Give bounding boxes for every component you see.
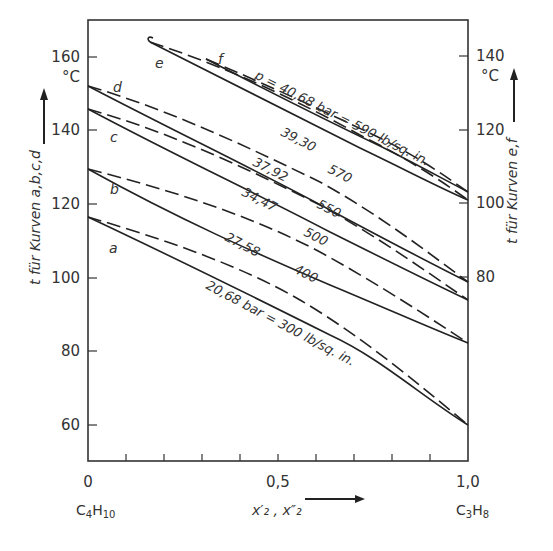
left-tick-100: 100: [51, 269, 80, 287]
curve-e-boiling: [150, 42, 468, 200]
component-left-c4h10: C4H10: [76, 502, 115, 520]
component-right-c3h8: C3H8: [456, 502, 489, 520]
left-tick-160: 160: [51, 48, 80, 66]
x-axis-title: x′₂ , x″₂: [251, 502, 302, 518]
x-ticks: [126, 454, 430, 461]
right-tick-120: 120: [476, 121, 505, 139]
phase-diagram: 60 80 100 120 140 160 °C 80 100 120 140 …: [0, 0, 553, 551]
right-y-ticks: [459, 56, 468, 277]
right-unit: °C: [481, 67, 499, 85]
annotation-27-58: 27,58: [223, 229, 263, 259]
curve-label-f: f: [218, 51, 225, 67]
curve-label-a: a: [109, 240, 118, 256]
right-tick-140: 140: [476, 47, 505, 65]
annotation-39-30: 39,30: [279, 124, 319, 154]
curve-label-e: e: [155, 55, 164, 71]
right-tick-100: 100: [476, 194, 505, 212]
curve-label-b: b: [110, 181, 119, 197]
left-tick-140: 140: [51, 121, 80, 139]
x-axis-arrow-icon: [305, 495, 365, 503]
left-unit: °C: [62, 68, 80, 86]
curve-label-c: c: [110, 129, 118, 145]
y-right-axis-arrow-icon: [510, 68, 518, 122]
y-left-axis-arrow-icon: [40, 88, 48, 144]
curves: [88, 37, 468, 425]
annotation-p-top: p = 40,68 bar = 590 lb/sq. in.: [252, 67, 433, 169]
left-tick-80: 80: [61, 342, 80, 360]
x-tick-0.5: 0,5: [266, 473, 290, 491]
annotation-p-bottom: 20,68 bar = 300 lb/sq. in.: [204, 277, 358, 368]
x-tick-1.0: 1,0: [456, 473, 480, 491]
x-tick-0: 0: [83, 473, 93, 491]
y-right-axis-title: t für Kurven e,f: [504, 136, 520, 244]
right-tick-80: 80: [476, 268, 495, 286]
y-left-axis-title: t für Kurven a,b,c,d: [27, 150, 43, 285]
left-tick-120: 120: [51, 195, 80, 213]
left-tick-60: 60: [61, 416, 80, 434]
annotation-550: 550: [315, 196, 344, 221]
curve-c-boiling: [88, 109, 468, 300]
annotation-400: 400: [292, 261, 321, 286]
annotation-570: 570: [326, 161, 355, 186]
curve-e-nose: [148, 37, 153, 42]
curve-label-d: d: [113, 79, 122, 95]
annotation-34-47: 34,47: [240, 184, 281, 215]
annotation-37-92: 37,92: [251, 154, 291, 184]
